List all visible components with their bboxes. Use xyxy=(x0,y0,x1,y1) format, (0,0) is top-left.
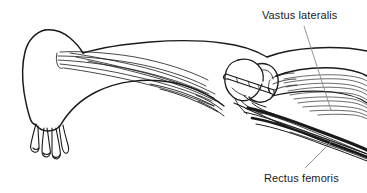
foot-outline xyxy=(23,30,83,131)
shank-muscle-strands xyxy=(56,52,216,106)
limb-line-drawing xyxy=(0,0,367,193)
shank-upper-contour xyxy=(83,41,267,57)
leader-line-rectus-femoris xyxy=(305,140,333,168)
vastus-lateralis-muscle xyxy=(269,68,367,119)
needle-electrode xyxy=(224,74,274,95)
label-vastus-lateralis: Vastus lateralis xyxy=(262,10,337,21)
anatomical-figure: Vastus lateralis Rectus femoris xyxy=(0,0,367,193)
shank-tendons xyxy=(150,84,224,116)
thigh-upper-contour xyxy=(267,48,367,57)
toes xyxy=(31,124,69,159)
label-rectus-femoris: Rectus femoris xyxy=(264,173,339,184)
